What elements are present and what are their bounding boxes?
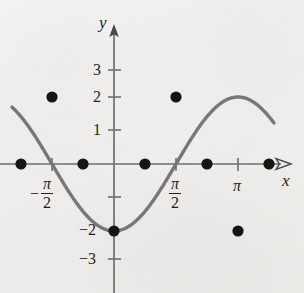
data-point	[263, 158, 274, 169]
data-point	[139, 158, 150, 169]
fraction-pi-over-2: π 2	[169, 176, 181, 211]
minus-sign: −	[30, 186, 39, 202]
data-point	[46, 91, 57, 102]
y-tick-label-1: 1	[93, 122, 101, 138]
y-tick-label-neg-2: −2	[79, 222, 96, 238]
data-point	[108, 225, 119, 236]
x-axis-label: x	[282, 172, 290, 189]
data-point	[77, 158, 88, 169]
y-tick-label-2: 2	[93, 89, 101, 105]
data-point	[170, 91, 181, 102]
y-tick-label-3: 3	[93, 62, 101, 78]
data-point	[232, 225, 243, 236]
y-axis	[109, 24, 119, 293]
fraction-numerator: π	[41, 176, 53, 193]
y-axis-label: y	[99, 14, 107, 31]
data-point	[15, 158, 26, 169]
fraction-denominator: 2	[169, 194, 181, 211]
x-tick-label-pi: π	[233, 178, 241, 194]
fraction-numerator: π	[169, 176, 181, 193]
graph-figure: y x 3 2 1 −2 −3 − π 2 π 2 π	[0, 0, 304, 293]
data-point	[201, 158, 212, 169]
y-tick-label-neg-3: −3	[79, 251, 96, 267]
fraction-pi-over-2: π 2	[41, 176, 53, 211]
plot-canvas	[0, 0, 304, 293]
fraction-denominator: 2	[41, 194, 53, 211]
x-tick-label-pi-over-2: π 2	[169, 176, 181, 211]
x-tick-label-neg-pi-over-2: − π 2	[30, 176, 53, 211]
